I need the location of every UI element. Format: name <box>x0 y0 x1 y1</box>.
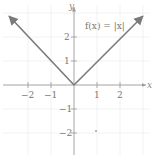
function-label: f(x) = |x| <box>85 21 125 32</box>
data-point <box>95 130 97 132</box>
y-tick-label: −2 <box>59 128 72 138</box>
x-tick-label: −1 <box>44 90 57 100</box>
x-tick-label: 1 <box>94 90 100 100</box>
y-tick-label: 1 <box>64 56 70 66</box>
x-tick-label: −2 <box>21 90 34 100</box>
grid <box>3 5 150 155</box>
y-tick-label: 2 <box>64 32 70 42</box>
x-axis-label: x <box>147 80 152 90</box>
abs-curve <box>9 16 74 85</box>
x-tick-label: 2 <box>117 90 123 100</box>
y-tick-label: −1 <box>59 104 72 114</box>
chart: −2 −1 1 2 2 1 −1 −2 x y f(x) = |x| <box>0 0 154 155</box>
y-axis-label: y <box>68 1 75 11</box>
